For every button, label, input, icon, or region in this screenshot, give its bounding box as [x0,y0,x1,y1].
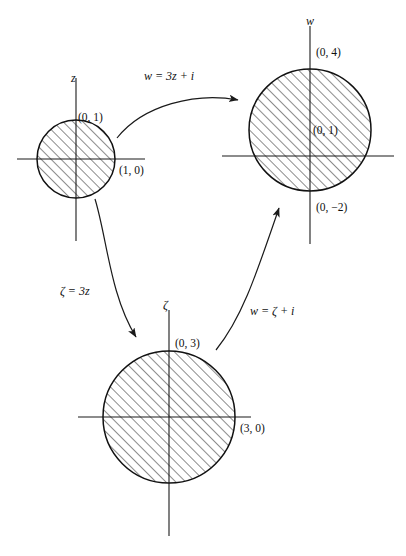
zeta-plane-disk [103,351,235,483]
z-plane-group [17,78,145,241]
arrow-zeta-to-w [216,208,279,350]
arrow-z-to-zeta-label: ζ = 3z [60,285,90,297]
conformal-mapping-figure: z (0, 1) (1, 0) w (0, 4) (0, 1) (0, −2) … [0,0,406,556]
zeta-plane-group [78,310,251,536]
zeta-plane-axis-label: ζ [163,299,168,311]
arrow-z-to-w-label: w = 3z + i [144,70,194,82]
arrow-z-to-w [117,98,238,138]
zeta-plane-top-point-label: (0, 3) [175,338,200,350]
w-plane-center-point-label: (0, 1) [313,125,338,137]
z-plane-right-point-label: (1, 0) [119,165,144,177]
z-plane-axis-label: z [71,72,76,84]
arrow-zeta-to-w-label: w = ζ + i [250,305,294,317]
w-plane-bottom-point-label: (0, −2) [316,202,347,214]
zeta-plane-right-point-label: (3, 0) [240,423,265,435]
diagram-canvas [0,0,406,556]
z-plane-disk [37,120,115,198]
arrow-z-to-zeta [95,199,136,337]
w-plane-disk [249,69,371,191]
z-plane-top-point-label: (0, 1) [78,112,103,124]
w-plane-axis-label: w [306,15,314,27]
w-plane-group [222,26,394,244]
w-plane-top-point-label: (0, 4) [316,47,341,59]
